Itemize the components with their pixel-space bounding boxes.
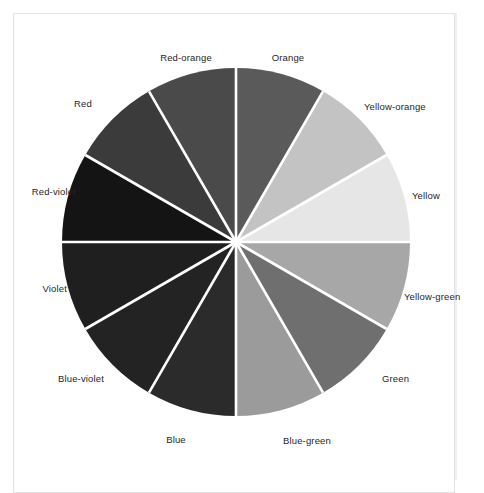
wheel-label-yellow: Yellow — [412, 191, 440, 201]
wheel-label-red-orange: Red-orange — [160, 53, 212, 63]
wheel-label-blue: Blue — [166, 435, 186, 445]
wheel-label-blue-green: Blue-green — [283, 436, 331, 446]
wheel-label-red-violet: Red-violet — [32, 187, 76, 197]
wheel-label-yellow-orange: Yellow-orange — [364, 102, 426, 112]
wheel-label-orange: Orange — [272, 53, 305, 63]
wheel-label-violet: Violet — [43, 284, 68, 294]
wheel-label-yellow-green: Yellow-green — [404, 292, 460, 302]
wheel-label-red: Red — [74, 99, 92, 109]
wheel-label-blue-violet: Blue-violet — [58, 374, 104, 384]
wheel-label-green: Green — [382, 374, 409, 384]
